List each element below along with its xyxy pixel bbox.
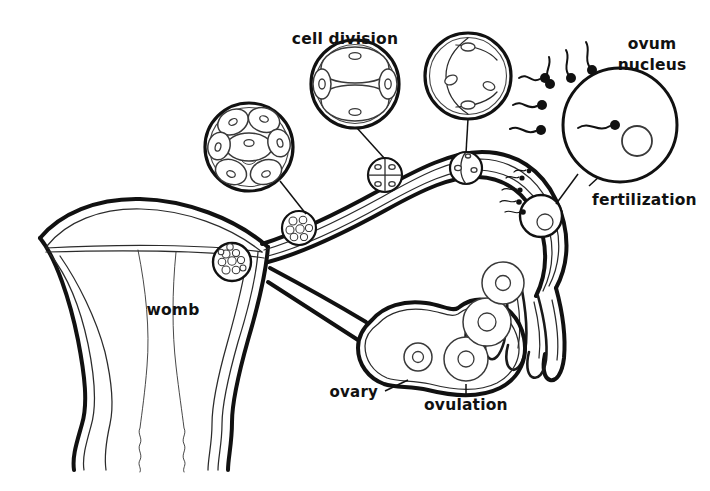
two-cell-inset [425,33,511,119]
label-cell-division: cell division [292,30,398,48]
ovary-follicle-2-nucleus [458,351,474,367]
ovum-nucleus-circle [622,126,652,156]
ovary-follicle-3-nucleus [478,313,496,331]
morula-in-tube [282,211,316,245]
label-womb: womb [146,301,199,319]
label-ovum-nucleus-line2: nucleus [618,56,687,74]
ovary-follicle-1-nucleus [413,352,424,363]
ovary-follicle-4-nucleus [496,276,511,291]
reproductive-system-diagram: cell division ovum nucleus fertilization… [0,0,710,491]
four-cell-inset [311,40,399,128]
label-ovulation: ovulation [424,396,508,414]
label-ovary: ovary [330,383,378,401]
four-cell-in-tube [368,158,402,192]
two-cell-in-tube [450,152,482,184]
implanting-blastocyst [213,243,251,281]
morula-inset [205,103,293,191]
label-fertilization: fertilization [592,191,697,209]
diagram-canvas: cell division ovum nucleus fertilization… [0,0,710,491]
label-ovum-nucleus-line1: ovum [628,35,677,53]
